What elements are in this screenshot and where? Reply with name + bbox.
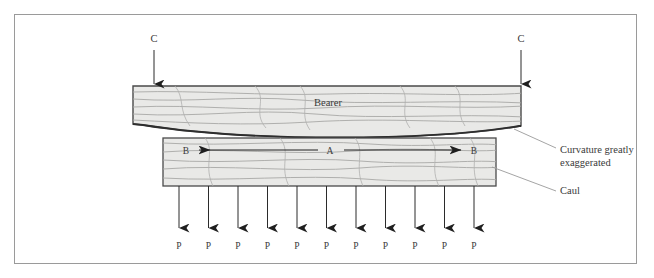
caul-label-b-right: B xyxy=(471,146,477,156)
pressure-label: P xyxy=(471,241,476,251)
pressure-label: P xyxy=(235,241,240,251)
pressure-label: P xyxy=(353,241,358,251)
pressure-label: P xyxy=(442,241,447,251)
pressure-label: P xyxy=(265,241,270,251)
bearer-label: Bearer xyxy=(314,97,342,108)
caul-callout-label: Caul xyxy=(560,185,580,196)
caul-label-a-center: A xyxy=(327,146,334,156)
clamp-label-left: C xyxy=(150,33,157,44)
figure-root: Bearer C C xyxy=(0,0,654,278)
bearer-shape xyxy=(133,86,525,138)
pressure-label: P xyxy=(176,241,181,251)
pressure-label: P xyxy=(294,241,299,251)
curvature-note-line1: Curvature greatly xyxy=(560,144,635,155)
caul-label-b-left: B xyxy=(183,146,189,156)
diagram-svg: Bearer C C xyxy=(0,0,654,278)
pressure-label: P xyxy=(383,241,388,251)
clamp-label-right: C xyxy=(517,33,524,44)
curvature-note-line2: exaggerated xyxy=(560,157,611,168)
pressure-label: P xyxy=(206,241,211,251)
pressure-label: P xyxy=(412,241,417,251)
pressure-label: P xyxy=(324,241,329,251)
